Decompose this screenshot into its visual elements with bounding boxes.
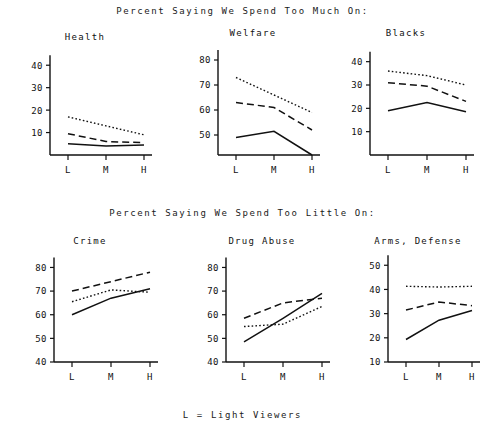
series-line-dotted — [244, 306, 322, 326]
chart-svg: 10203040LMH — [330, 28, 482, 197]
y-tick-label: 10 — [351, 127, 363, 137]
chart-svg: 10203040LMH — [10, 32, 160, 197]
x-tick-label: L — [69, 372, 75, 382]
y-tick-label: 70 — [199, 80, 211, 90]
y-tick-label: 30 — [369, 309, 381, 319]
chart-panel-arms-defense: Arms, Defense 1020304050LMH — [348, 236, 485, 404]
x-tick-label: H — [319, 372, 325, 382]
y-tick-label: 50 — [199, 130, 211, 140]
y-tick-label: 40 — [35, 357, 47, 367]
series-line-dashed — [388, 83, 466, 102]
chart-svg: 50607080LMH — [178, 28, 328, 197]
y-tick-label: 20 — [351, 104, 363, 114]
chart-panel-crime: Crime 4050607080LMH — [14, 236, 166, 404]
y-tick-label: 70 — [35, 286, 47, 296]
x-tick-label: L — [233, 165, 239, 175]
series-line-solid — [72, 289, 150, 315]
chart-panel-welfare: Welfare 50607080LMH — [178, 28, 328, 197]
y-tick-label: 70 — [207, 286, 219, 296]
chart-panel-drug-abuse: Drug Abuse 4050607080LMH — [186, 236, 338, 404]
y-tick-label: 40 — [351, 57, 363, 67]
series-line-dotted — [406, 286, 472, 287]
x-tick-label: H — [147, 372, 153, 382]
x-tick-label: H — [309, 165, 315, 175]
series-line-dotted — [68, 117, 144, 135]
y-tick-label: 80 — [207, 263, 219, 273]
x-tick-label: L — [65, 165, 71, 175]
y-tick-label: 20 — [31, 106, 43, 116]
figure-root: Percent Saying We Spend Too Much On: Hea… — [0, 0, 485, 431]
series-line-solid — [406, 310, 472, 339]
chart-panel-blacks: Blacks 10203040LMH — [330, 28, 482, 197]
x-tick-label: M — [436, 372, 442, 382]
y-tick-label: 60 — [199, 105, 211, 115]
y-tick-label: 40 — [31, 61, 43, 71]
y-tick-label: 10 — [31, 128, 43, 138]
y-tick-label: 40 — [207, 357, 219, 367]
x-tick-label: H — [469, 372, 475, 382]
series-line-dashed — [68, 134, 144, 143]
x-tick-label: M — [271, 165, 277, 175]
series-line-dashed — [406, 302, 472, 310]
chart-panel-health: Health 10203040LMH — [10, 32, 160, 197]
y-tick-label: 10 — [369, 357, 381, 367]
y-tick-label: 60 — [35, 310, 47, 320]
x-tick-label: H — [141, 165, 147, 175]
x-tick-label: H — [463, 165, 469, 175]
footnote-light-viewers: L = Light Viewers — [0, 410, 485, 420]
x-tick-label: M — [108, 372, 114, 382]
series-line-dotted — [388, 71, 466, 85]
y-tick-label: 40 — [369, 285, 381, 295]
x-tick-label: L — [241, 372, 247, 382]
series-line-solid — [244, 293, 322, 341]
chart-svg: 4050607080LMH — [14, 236, 166, 404]
x-tick-label: L — [385, 165, 391, 175]
chart-svg: 1020304050LMH — [348, 236, 485, 404]
series-line-solid — [236, 131, 312, 155]
section-title-too-little: Percent Saying We Spend Too Little On: — [0, 208, 485, 218]
section-title-too-much: Percent Saying We Spend Too Much On: — [0, 6, 485, 16]
y-tick-label: 50 — [207, 334, 219, 344]
x-tick-label: M — [103, 165, 109, 175]
y-tick-label: 20 — [369, 333, 381, 343]
y-tick-label: 60 — [207, 310, 219, 320]
series-line-dashed — [72, 272, 150, 291]
series-line-solid — [68, 144, 144, 146]
chart-svg: 4050607080LMH — [186, 236, 338, 404]
y-tick-label: 30 — [31, 83, 43, 93]
x-tick-label: L — [403, 372, 409, 382]
y-tick-label: 30 — [351, 80, 363, 90]
series-line-dashed — [236, 103, 312, 131]
y-tick-label: 80 — [199, 55, 211, 65]
x-tick-label: M — [280, 372, 286, 382]
x-tick-label: M — [424, 165, 430, 175]
y-tick-label: 80 — [35, 263, 47, 273]
y-tick-label: 50 — [35, 334, 47, 344]
series-line-solid — [388, 103, 466, 112]
y-tick-label: 50 — [369, 261, 381, 271]
